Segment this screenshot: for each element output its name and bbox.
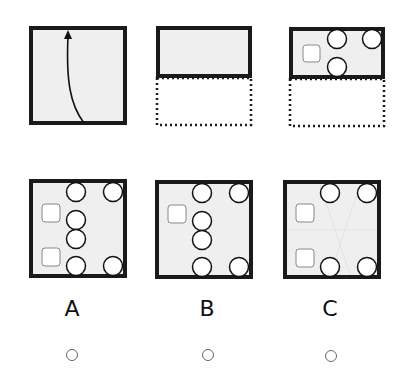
step-3-panel: [290, 29, 384, 126]
option-c-radio[interactable]: [325, 350, 337, 362]
step-2-panel: [157, 28, 251, 125]
option-b-radio[interactable]: [202, 349, 214, 361]
option-b-figure: [157, 182, 251, 277]
option-c-label: C: [310, 296, 350, 321]
option-a-radio[interactable]: [66, 349, 78, 361]
step-1-panel: [31, 28, 125, 123]
puzzle-figure: [0, 0, 397, 381]
option-c-figure: [285, 182, 379, 277]
option-a-figure: [31, 181, 125, 276]
option-b-label: B: [187, 296, 227, 321]
option-a-label: A: [52, 296, 92, 321]
